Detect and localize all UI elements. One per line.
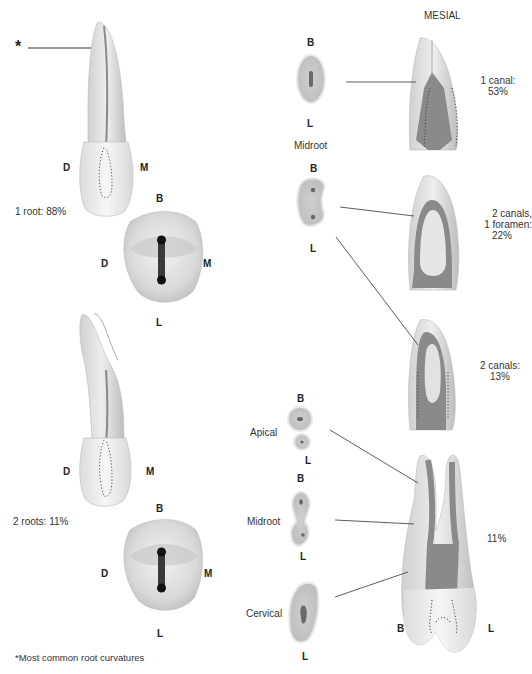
caption-two-canals-one-foramen-line3: 22% [462,230,532,241]
mesial-view-two-canals-one-foramen [409,176,459,290]
leader-lines [330,82,418,597]
leader-line-cervical [335,572,408,597]
cross-section-midroot-two-roots [291,492,310,546]
caption-two-canals-one-foramen-line2: 1 foramen: [462,219,532,230]
mesial-view-two-roots [402,455,477,652]
cross-section-cervical [289,583,318,643]
footnote: *Most common root curvatures [15,652,144,663]
caption-one-canal: 1 canal: 53% [468,75,528,97]
occlusal2-label-mesial: M [204,568,212,579]
midroot2-label-lingual: L [300,551,306,562]
section-level-midroot-2: Midroot [247,516,280,527]
dental-figure-artwork [0,0,532,674]
leader-line-apical [330,430,418,483]
occlusal2-label-lingual: L [157,628,163,639]
tooth1-label-mesial: M [140,162,148,173]
section-level-midroot: Midroot [294,140,327,151]
tooth2-label-mesial: M [146,466,154,477]
leader-line-two-canals-one-foramen [340,207,414,216]
caption-one-canal-line2: 53% [468,86,528,97]
tooth1-label-distal: D [63,162,70,173]
section-level-cervical: Cervical [246,608,282,619]
section2-label-buccal: B [310,163,317,174]
cross-section-apical [288,407,312,450]
occlusal1-label-buccal: B [156,193,163,204]
caption-two-canals-one-foramen: 2 canals, 1 foramen: 22% [462,208,532,241]
apical-label-buccal: B [297,393,304,404]
section1-label-lingual: L [307,118,313,129]
occlusal1-label-distal: D [101,258,108,269]
leader-line-midroot [335,520,414,524]
mesial-view-one-canal [409,38,457,150]
caption-two-canals-one-foramen-line1: 2 canals, [462,208,532,219]
cross-section-single-canal [297,55,325,103]
tooth2-caption: 2 roots: 11% [13,516,68,527]
occlusal1-label-lingual: L [156,317,162,328]
caption-two-roots-percent: 11% [487,533,506,544]
occlusal-view-two-roots [124,520,203,611]
occlusal1-label-mesial: M [203,258,211,269]
occlusal-view-one-root [124,212,203,303]
section2-label-lingual: L [310,243,316,254]
mesial-header: MESIAL [424,10,461,21]
section-level-apical: Apical [250,427,277,438]
mesial4-label-lingual: L [488,623,494,634]
mesial4-label-buccal: B [397,623,404,634]
apical-label-lingual: L [305,455,311,466]
section1-label-buccal: B [307,37,314,48]
cervical-label-lingual: L [302,651,308,662]
caption-two-canals-line1: 2 canals: [472,360,528,371]
caption-two-canals-line2: 13% [472,371,528,382]
occlusal2-label-buccal: B [156,503,163,514]
tooth-two-roots-illustration [80,314,131,506]
midroot2-label-buccal: B [297,473,304,484]
tooth-one-root-illustration [80,22,133,216]
caption-one-canal-line1: 1 canal: [468,75,528,86]
leader-line-two-canals [336,237,418,345]
mesial-view-two-canals [408,320,455,430]
asterisk-marker: * [15,38,21,56]
cross-section-two-canals-midroot [297,178,325,226]
occlusal2-label-distal: D [101,568,108,579]
tooth1-caption: 1 root: 88% [15,206,66,217]
caption-two-canals: 2 canals: 13% [472,360,528,382]
tooth2-label-distal: D [63,466,70,477]
